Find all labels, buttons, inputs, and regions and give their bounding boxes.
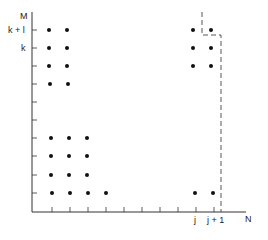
lattice-point (47, 46, 51, 50)
lattice-point (48, 82, 52, 86)
lattice-point (65, 28, 69, 32)
lattice-point (67, 173, 71, 177)
lattice-point (209, 64, 213, 68)
lattice-point (65, 64, 69, 68)
lattice-point (67, 136, 71, 140)
lattice-diagram: M N k + l k j j + 1 (0, 0, 268, 240)
lattice-point (193, 191, 197, 195)
lattice-point (47, 64, 51, 68)
lattice-point (50, 191, 54, 195)
y-axis-label: M (20, 11, 28, 21)
lattice-point (47, 28, 51, 32)
lattice-point (67, 154, 71, 158)
lattice-point (209, 28, 213, 32)
x-ticks (52, 207, 214, 212)
x-tick-label-j: j (193, 215, 196, 225)
y-tick-label-k: k (21, 43, 26, 53)
y-ticks (32, 30, 37, 193)
lattice-point (66, 82, 70, 86)
lattice-point (65, 46, 69, 50)
lattice-point (191, 64, 195, 68)
lattice-point (211, 191, 215, 195)
lattice-point (191, 28, 195, 32)
dashed-boundary (202, 12, 221, 212)
x-tick-label-j-plus-1: j + 1 (206, 215, 224, 225)
y-tick-label-k-plus-l: k + l (8, 25, 25, 35)
lattice-point (49, 154, 53, 158)
lattice-points (47, 28, 215, 195)
lattice-point (86, 191, 90, 195)
x-axis-label: N (245, 214, 252, 224)
lattice-point (85, 154, 89, 158)
lattice-point (209, 46, 213, 50)
lattice-point (85, 173, 89, 177)
lattice-point (49, 173, 53, 177)
lattice-point (191, 46, 195, 50)
axes (32, 12, 246, 212)
lattice-point (68, 191, 72, 195)
lattice-point (49, 136, 53, 140)
lattice-point (85, 136, 89, 140)
lattice-point (104, 191, 108, 195)
